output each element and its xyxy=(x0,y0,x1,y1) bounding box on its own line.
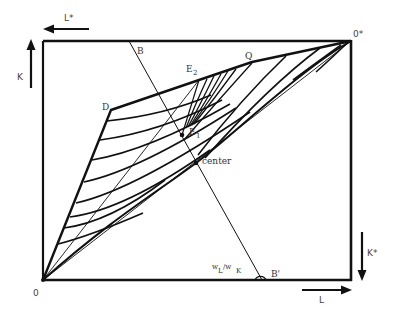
label-Q: Q xyxy=(245,51,252,61)
point-center xyxy=(194,161,199,166)
svg-text:K: K xyxy=(236,267,242,275)
label-D: D xyxy=(102,102,109,112)
label-center: center xyxy=(202,156,232,166)
label-origin-star: 0* xyxy=(353,29,364,39)
L-star-arrow xyxy=(43,25,89,34)
svg-text:2: 2 xyxy=(193,69,197,77)
label-L: L xyxy=(319,295,324,305)
expansion-path-line xyxy=(43,80,199,280)
K-arrow xyxy=(27,39,36,88)
point-E1 xyxy=(180,133,185,138)
label-origin: 0 xyxy=(33,288,39,298)
label-price-ratio: w L /w K xyxy=(212,263,242,275)
svg-text:/w: /w xyxy=(223,263,231,271)
edgeworth-box-diagram: L* K K* L 0 0* B B' D Q center E 2 E 1 w… xyxy=(0,0,395,316)
label-B-prime: B' xyxy=(271,269,280,279)
label-E1: E 1 xyxy=(189,127,200,140)
L-arrow xyxy=(302,286,352,295)
label-L-star: L* xyxy=(64,13,74,23)
label-K-star: K* xyxy=(367,248,378,258)
K-star-arrow xyxy=(358,232,367,281)
label-B: B xyxy=(137,46,144,56)
svg-text:E: E xyxy=(189,127,196,137)
svg-text:E: E xyxy=(186,64,193,74)
label-K: K xyxy=(17,72,24,82)
label-E2: E 2 xyxy=(186,64,197,77)
svg-text:1: 1 xyxy=(196,132,200,140)
point-origin xyxy=(41,278,45,282)
